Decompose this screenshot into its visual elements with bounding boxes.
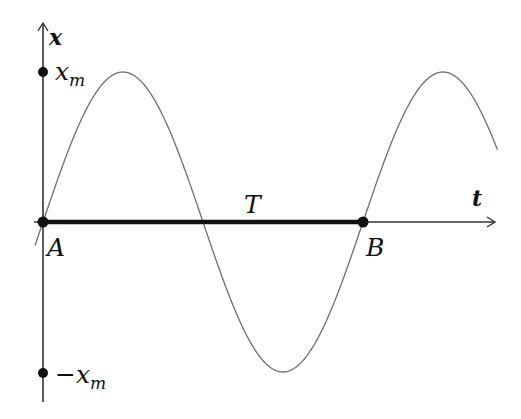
amplitude-neg-label: −xm (55, 360, 106, 393)
amplitude-neg-point (38, 368, 48, 378)
x-axis-label: t (472, 185, 482, 211)
point-b-label: B (365, 233, 384, 262)
point-a (38, 217, 49, 228)
oscillation-diagram: x t xm −xm A B T (0, 0, 521, 419)
period-label: T (244, 190, 263, 219)
amplitude-pos-point (38, 67, 48, 77)
y-axis-label: x (48, 24, 63, 50)
point-b (358, 217, 369, 228)
amplitude-pos-label: xm (55, 57, 85, 90)
point-a-label: A (45, 233, 65, 262)
